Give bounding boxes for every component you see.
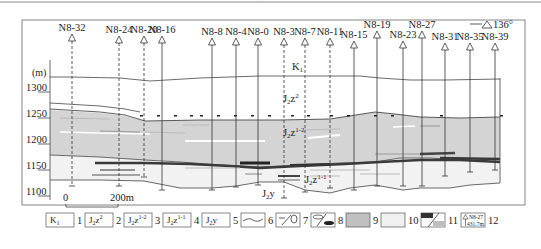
svg-text:431.7m: 431.7m bbox=[467, 221, 484, 227]
svg-text:N8-27: N8-27 bbox=[469, 214, 483, 220]
well-label: N8-32 bbox=[59, 22, 86, 33]
legend-number: 7 bbox=[303, 215, 308, 226]
y-tick-label: 1100 bbox=[26, 186, 47, 197]
well-label: N8-11 bbox=[317, 26, 343, 37]
legend-number: 9 bbox=[373, 215, 378, 226]
well-label: N8-7 bbox=[294, 26, 316, 37]
y-axis-unit: (m) bbox=[32, 67, 46, 79]
legend-number: 4 bbox=[194, 215, 200, 226]
legend-number: 6 bbox=[268, 215, 273, 226]
well-label: N8-8 bbox=[201, 26, 223, 37]
legend-item-11: 11 bbox=[421, 213, 458, 227]
well-label: N8-27 bbox=[409, 19, 436, 30]
legend-item-1: K11 bbox=[46, 213, 82, 227]
legend-number: 10 bbox=[408, 215, 419, 226]
legend-number: 8 bbox=[338, 215, 343, 226]
scale-bar-start: 0 bbox=[63, 192, 68, 203]
legend-item-8: 8 bbox=[311, 213, 343, 227]
legend-number: 3 bbox=[155, 215, 160, 226]
scale-bar-end: 200m bbox=[110, 192, 134, 203]
legend-number: 11 bbox=[448, 215, 458, 226]
orientation-label: 136° bbox=[493, 19, 513, 30]
well-label: N8-4 bbox=[225, 26, 247, 37]
legend-item-5: J2y5 bbox=[202, 213, 238, 227]
well-label: N8-15 bbox=[341, 29, 368, 40]
well-label: N8-19 bbox=[364, 19, 391, 30]
legend-item-6: 6 bbox=[241, 213, 273, 227]
well-label: N8-31 bbox=[432, 31, 459, 42]
legend-number: 1 bbox=[77, 215, 82, 226]
legend-item-4: J2z1-14 bbox=[163, 213, 200, 227]
y-tick-label: 1250 bbox=[26, 108, 47, 119]
legend-number: 12 bbox=[488, 215, 499, 226]
y-tick-label: 1300 bbox=[26, 82, 47, 93]
well-label: N8-35 bbox=[457, 31, 484, 42]
well-label: N8-23 bbox=[390, 29, 417, 40]
svg-text:J2y: J2y bbox=[206, 215, 218, 226]
y-tick-label: 1150 bbox=[26, 160, 47, 171]
legend-number: 2 bbox=[116, 215, 121, 226]
legend-item-12: N8-27431.7m12 bbox=[461, 213, 499, 227]
legend-item-10: 10 bbox=[381, 213, 419, 227]
legend-item-3: J2z1-23 bbox=[124, 213, 160, 227]
legend-number: 5 bbox=[233, 215, 238, 226]
legend-item-7: 7 bbox=[276, 213, 308, 227]
well-label: N8-3 bbox=[273, 26, 295, 37]
y-tick-label: 1200 bbox=[26, 134, 47, 145]
legend-item-2: J2z22 bbox=[85, 213, 121, 227]
cross-section-diagram: 13001250120011501100 (m) N8-32N8-24N8-20… bbox=[0, 0, 541, 249]
legend: K11J2z22J2z1-23J2z1-14J2y567891011N8-274… bbox=[46, 213, 499, 227]
lens-icon bbox=[324, 221, 334, 225]
well-label: N8-24 bbox=[106, 24, 134, 35]
well-label: N8-0 bbox=[247, 26, 269, 37]
legend-item-9: 9 bbox=[346, 213, 378, 227]
well-label: N8-39 bbox=[482, 31, 509, 42]
well-label: N8-16 bbox=[149, 24, 176, 35]
